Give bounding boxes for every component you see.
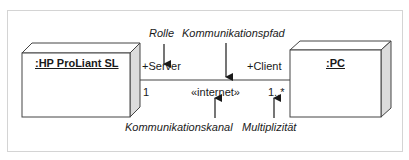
multiplicity-annotation: Multiplizität — [242, 121, 296, 134]
role-annotation: Rolle — [149, 27, 174, 40]
client-multiplicity: 1..* — [268, 86, 285, 99]
node-pc — [290, 41, 391, 117]
node-hp-proliant-title: :HP ProLiant SL — [35, 57, 119, 69]
server-multiplicity: 1 — [143, 86, 149, 99]
stereotype-label: «internet» — [191, 86, 240, 99]
client-role-label: +Client — [247, 60, 282, 73]
diagram-canvas — [0, 0, 409, 160]
node-hp-proliant — [22, 43, 140, 117]
server-role-label: +Server — [142, 60, 181, 73]
node-pc-title: :PC — [326, 57, 345, 69]
communication-channel-annotation: Kommunikationskanal — [125, 121, 233, 134]
communication-path-annotation: Kommunikationspfad — [182, 27, 285, 40]
